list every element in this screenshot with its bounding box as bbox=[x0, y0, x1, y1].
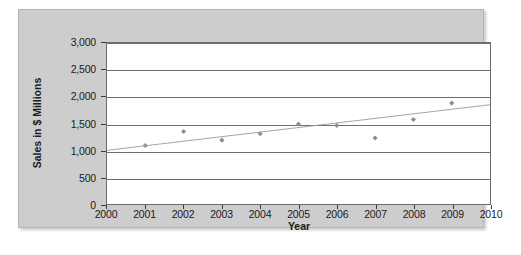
data-point-marker bbox=[373, 135, 378, 140]
y-axis-tick-label: 500 bbox=[79, 172, 96, 184]
y-axis-tick-label: 2,000 bbox=[71, 90, 96, 102]
y-axis-label: Sales in $ Millions bbox=[31, 78, 43, 168]
x-axis-tick-label: 2001 bbox=[133, 208, 156, 220]
data-layer bbox=[107, 43, 490, 204]
y-axis-tick-label: 1,000 bbox=[71, 145, 96, 157]
x-axis-tick-label: 2003 bbox=[210, 208, 233, 220]
x-axis-tick-mark bbox=[222, 205, 223, 209]
x-axis-tick-mark bbox=[145, 205, 146, 209]
data-point-marker bbox=[219, 138, 224, 143]
data-point-marker bbox=[181, 129, 186, 134]
chart-panel: Sales in $ Millions Year 05001,0001,5002… bbox=[18, 9, 484, 228]
data-point-marker bbox=[449, 101, 454, 106]
trend-line bbox=[107, 105, 490, 151]
x-axis-tick-mark bbox=[414, 205, 415, 209]
x-axis-tick-mark bbox=[183, 205, 184, 209]
data-point-marker bbox=[411, 117, 416, 122]
x-axis-tick-mark bbox=[376, 205, 377, 209]
x-axis-tick-label: 2002 bbox=[172, 208, 195, 220]
x-axis-tick-mark bbox=[106, 205, 107, 209]
x-axis-label: Year bbox=[288, 220, 310, 232]
data-point-marker bbox=[296, 121, 301, 126]
x-axis-tick-mark bbox=[453, 205, 454, 209]
x-axis-tick-label: 2007 bbox=[364, 208, 387, 220]
x-axis-tick-label: 2004 bbox=[249, 208, 272, 220]
x-axis-tick-label: 2010 bbox=[480, 208, 503, 220]
x-axis-tick-mark bbox=[260, 205, 261, 209]
y-axis-tick-label: 1,500 bbox=[71, 118, 96, 130]
x-axis-tick-label: 2005 bbox=[287, 208, 310, 220]
x-axis-tick-label: 2009 bbox=[441, 208, 464, 220]
y-axis-tick-label: 3,000 bbox=[71, 36, 96, 48]
x-axis-tick-label: 2006 bbox=[326, 208, 349, 220]
x-axis-tick-label: 2000 bbox=[95, 208, 118, 220]
x-axis-tick-mark bbox=[299, 205, 300, 209]
x-axis-tick-label: 2008 bbox=[403, 208, 426, 220]
plot-area bbox=[106, 42, 491, 205]
x-axis-tick-mark bbox=[491, 205, 492, 209]
figure-container: Sales in $ Millions Year 05001,0001,5002… bbox=[0, 0, 521, 255]
x-axis-tick-mark bbox=[337, 205, 338, 209]
y-axis-tick-label: 2,500 bbox=[71, 63, 96, 75]
